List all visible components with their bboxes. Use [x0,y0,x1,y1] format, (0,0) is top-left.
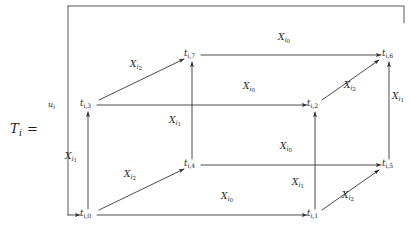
edge-label-subsubscript: 1 [301,183,304,189]
figure-canvas: Ti= [0,0,414,241]
edge-label-subsubscript: 1 [401,97,404,103]
edge-label-x-i-1-center: Xi1 [169,116,181,127]
node-t-i-3: ti,3 [80,99,91,109]
node-subscript: i,7 [187,52,195,59]
edge-label-subsubscript: 1 [74,157,77,163]
node-t-i-2: ti,2 [307,99,318,109]
input-arrow-label: ui [48,101,55,110]
edge-label-x-i-2-lower-left: Xi2 [124,170,136,181]
edge-label-x-i-0-middle: Xi0 [243,82,255,93]
node-subscript: i,6 [385,52,393,59]
node-subscript: i,2 [310,102,318,109]
edge-label-subsubscript: 2 [351,196,354,202]
edge-t1-t5 [322,170,379,210]
edge-label-x-i-2-upper-right: Xi2 [344,81,356,92]
edge-label-subsubscript: 0 [252,87,255,93]
edge-label-x-i-1-left: Xi1 [65,152,77,163]
node-t-i-0: ti,0 [80,209,91,219]
edge-label-x-i-0-top: Xi0 [278,33,290,44]
edge-label-subsubscript: 2 [139,65,142,71]
node-subscript: i,1 [310,212,318,219]
node-subscript: i,3 [83,102,91,109]
edge-label-subsubscript: 0 [230,197,233,203]
outer-frame-top [68,6,404,23]
edge-t0-t4 [99,169,184,210]
cube-diagram [0,0,414,241]
edge-label-x-i-2-upper-left: Xi2 [130,60,142,71]
edge-label-subsubscript: 2 [353,86,356,92]
edge-label-subsubscript: 0 [287,38,290,44]
edge-label-subsubscript: 0 [289,147,292,153]
edge-label-x-i-0-lower: Xi0 [280,142,292,153]
input-arrow-subscript: i [53,104,55,110]
edge-label-x-i-1-right: Xi1 [392,92,404,103]
node-subscript: i,4 [187,162,195,169]
edge-label-x-i-0-bottom: Xi0 [221,192,233,203]
node-t-i-5: ti,5 [382,159,393,169]
node-t-i-6: ti,6 [382,49,393,59]
node-subscript: i,5 [385,162,393,169]
node-t-i-7: ti,7 [184,49,195,59]
edge-t2-t6 [322,60,379,100]
edge-label-x-i-2-lower-right: Xi2 [342,191,354,202]
edge-label-subsubscript: 1 [178,121,181,127]
edge-label-subsubscript: 2 [133,175,136,181]
edge-label-x-i-1-inner: Xi1 [292,178,304,189]
node-t-i-1: ti,1 [307,209,318,219]
node-subscript: i,0 [83,212,91,219]
node-t-i-4: ti,4 [184,159,195,169]
